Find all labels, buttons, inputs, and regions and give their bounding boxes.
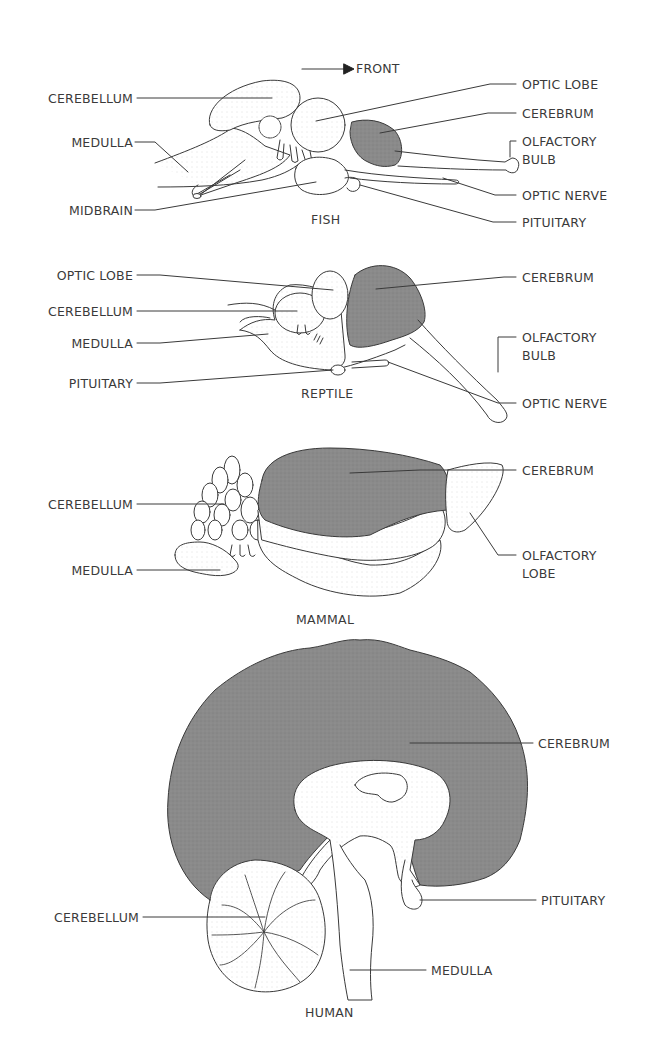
- human-label-medulla: MEDULLA: [431, 963, 493, 978]
- fish-label-cerebellum: CEREBELLUM: [48, 91, 133, 106]
- reptile-label-cerebrum: CEREBRUM: [522, 270, 594, 285]
- fish-label-olfactory: OLFACTORY: [522, 134, 597, 149]
- fish-label-optic-lobe: OPTIC LOBE: [522, 77, 598, 92]
- brain-comparison-artwork: [0, 0, 664, 1045]
- mammal-caption: MAMMAL: [296, 612, 354, 627]
- human-label-cerebellum: CEREBELLUM: [54, 910, 139, 925]
- front-direction-label: FRONT: [356, 61, 400, 76]
- fish-label-pituitary: PITUITARY: [522, 215, 586, 230]
- mammal-label-cerebellum: CEREBELLUM: [48, 497, 133, 512]
- fish-label-cerebrum: CEREBRUM: [522, 106, 594, 121]
- fish-label-medulla: MEDULLA: [71, 135, 133, 150]
- fish-label-optic-nerve: OPTIC NERVE: [522, 188, 607, 203]
- reptile-caption: REPTILE: [301, 386, 353, 401]
- fish-caption: FISH: [311, 212, 340, 227]
- fish-label-bulb: BULB: [522, 152, 556, 167]
- human-label-pituitary: PITUITARY: [541, 893, 605, 908]
- fish-label-midbrain: MIDBRAIN: [69, 203, 133, 218]
- reptile-brain-drawing: [228, 266, 507, 423]
- human-label-cerebrum: CEREBRUM: [538, 736, 610, 751]
- front-arrow-icon: [302, 64, 354, 74]
- reptile-label-optic-nerve: OPTIC NERVE: [522, 396, 607, 411]
- reptile-label-pituitary: PITUITARY: [69, 376, 133, 391]
- reptile-label-medulla: MEDULLA: [71, 336, 133, 351]
- mammal-label-lobe: LOBE: [522, 566, 556, 581]
- mammal-label-cerebrum: CEREBRUM: [522, 463, 594, 478]
- mammal-label-olfactory: OLFACTORY: [522, 548, 597, 563]
- reptile-label-bulb: BULB: [522, 348, 556, 363]
- mammal-label-medulla: MEDULLA: [71, 563, 133, 578]
- human-brain-drawing: [168, 640, 528, 1000]
- reptile-label-olfactory: OLFACTORY: [522, 330, 597, 345]
- reptile-label-optic-lobe: OPTIC LOBE: [57, 268, 133, 283]
- human-caption: HUMAN: [305, 1005, 354, 1020]
- reptile-label-cerebellum: CEREBELLUM: [48, 304, 133, 319]
